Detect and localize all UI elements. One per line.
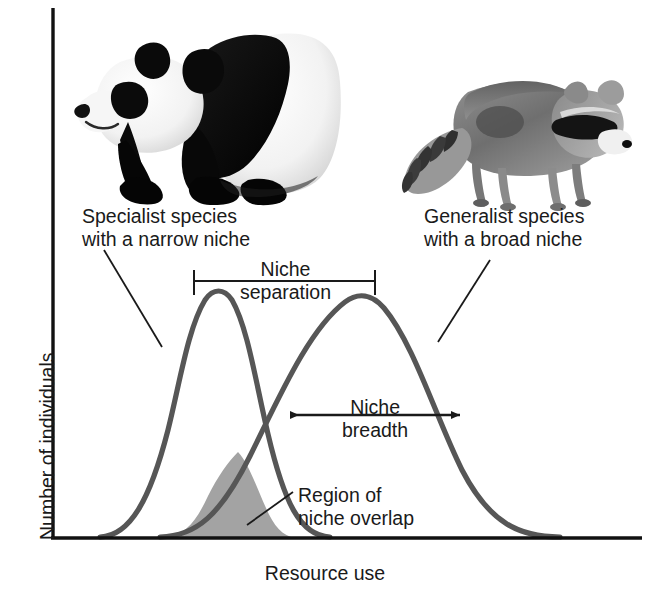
label-niche-separation: Niche separation bbox=[240, 258, 331, 303]
x-axis-label: Resource use bbox=[0, 562, 650, 585]
generalist-animal-image-raccoon bbox=[402, 80, 632, 211]
label-niche-breadth: Niche breadth bbox=[342, 396, 408, 441]
generalist-leader-line bbox=[438, 260, 490, 342]
y-axis-label-wrapper: Number of individuals bbox=[14, 250, 40, 550]
label-specialist-species: Specialist species with a narrow niche bbox=[82, 205, 250, 250]
specialist-leader-line bbox=[104, 250, 162, 347]
label-generalist-species: Generalist species with a broad niche bbox=[424, 205, 584, 250]
label-niche-overlap: Region of niche overlap bbox=[298, 484, 414, 529]
specialist-animal-image-panda bbox=[74, 34, 341, 206]
figure-niche-breadth: Specialist species with a narrow niche G… bbox=[0, 0, 650, 595]
y-axis-label: Number of individuals bbox=[36, 240, 59, 540]
